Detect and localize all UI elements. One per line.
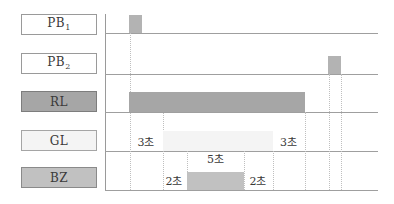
signal-box-bz: BZ: [21, 167, 97, 188]
baseline-pb2: [105, 74, 378, 75]
bz-duration-label: 5초: [187, 154, 244, 166]
signal-box-pb2: PB2: [21, 53, 97, 74]
baseline-rl: [105, 112, 378, 113]
signal-label-gl: GL: [50, 134, 69, 148]
pb2-pulse: [328, 56, 341, 74]
pb1-pulse: [129, 15, 142, 33]
timing-diagram: PB1 PB2 RL GL BZ 3초 2초 5초 2초 3초: [0, 0, 394, 204]
signal-box-rl: RL: [21, 91, 97, 112]
event-line-pb2-release: [341, 74, 342, 190]
signal-label-pb1: PB1: [47, 16, 71, 32]
signal-label-rl: RL: [50, 95, 68, 109]
bz-on-bar: [187, 172, 244, 190]
baseline-bz: [105, 190, 378, 191]
baseline-pb1: [105, 33, 378, 34]
gl-on-bar: [163, 131, 273, 151]
signal-box-gl: GL: [21, 130, 97, 151]
time-axis-vertical: [105, 14, 106, 190]
event-line-rl-off: [305, 112, 306, 190]
signal-label-bz: BZ: [50, 171, 68, 185]
bz-on-delay-label: 2초: [160, 176, 188, 188]
gl-on-delay-label: 3초: [128, 137, 164, 149]
signal-label-pb2: PB2: [47, 55, 71, 71]
gl-off-delay-label: 2초: [242, 176, 274, 188]
baseline-gl: [105, 151, 378, 152]
signal-box-pb1: PB1: [21, 14, 97, 35]
rl-off-delay-label: 3초: [271, 137, 306, 149]
event-line-pb2-press: [329, 74, 330, 190]
rl-on-bar: [129, 92, 305, 112]
